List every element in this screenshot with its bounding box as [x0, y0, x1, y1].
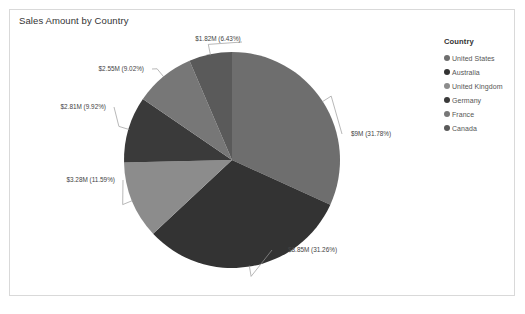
legend-item-label: Australia [452, 69, 480, 76]
slice-data-label: $2.81M (9.92%) [61, 103, 106, 111]
pie-svg: $9M (31.78%)$8.85M (31.26%)$3.28M (11.59… [10, 28, 440, 296]
plot-area[interactable]: $9M (31.78%)$8.85M (31.26%)$3.28M (11.59… [10, 28, 440, 296]
legend-swatch-icon [444, 55, 450, 61]
legend[interactable]: Country United StatesAustraliaUnited Kin… [444, 37, 512, 135]
legend-item[interactable]: United Kingdom [444, 79, 512, 93]
legend-item[interactable]: Germany [444, 93, 512, 107]
leader-line [152, 69, 164, 78]
legend-item[interactable]: Canada [444, 121, 512, 135]
legend-swatch-icon [444, 125, 450, 131]
legend-title: Country [444, 37, 512, 46]
slice-data-label: $1.82M (6.43%) [195, 35, 240, 43]
pie-slices[interactable] [124, 52, 340, 268]
leader-line [114, 107, 129, 130]
pie-chart-visual[interactable]: Sales Amount by Country $9M (31.78%)$8.8… [9, 9, 515, 296]
legend-swatch-icon [444, 97, 450, 103]
legend-swatch-icon [444, 69, 450, 75]
legend-item[interactable]: Australia [444, 65, 512, 79]
slice-data-label: $9M (31.78%) [351, 130, 391, 138]
legend-swatch-icon [444, 111, 450, 117]
slice-data-label: $2.55M (9.02%) [99, 65, 144, 73]
slice-data-label: $3.28M (11.59%) [66, 176, 115, 184]
legend-item[interactable]: United States [444, 51, 512, 65]
legend-item[interactable]: France [444, 107, 512, 121]
legend-item-label: United States [452, 55, 495, 62]
page-title: Sales Amount by Country [19, 15, 129, 26]
legend-item-label: Canada [452, 125, 477, 132]
legend-item-label: United Kingdom [452, 83, 503, 90]
legend-item-label: France [452, 111, 474, 118]
legend-items[interactable]: United StatesAustraliaUnited KingdomGerm… [444, 51, 512, 135]
legend-swatch-icon [444, 83, 450, 89]
slice-data-label: $8.85M (31.26%) [288, 246, 337, 254]
legend-item-label: Germany [452, 97, 481, 104]
